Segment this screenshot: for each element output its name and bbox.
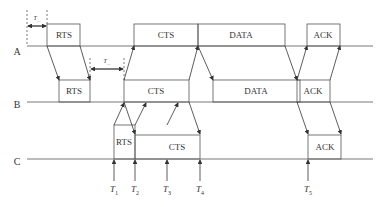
frame-label-c-rts: RTS	[116, 137, 132, 147]
frame-label-a-data: DATA	[229, 30, 252, 40]
frame-label-b-data: DATA	[244, 86, 267, 96]
frame-c-cts	[135, 135, 200, 159]
time-marker-t3: T3	[163, 184, 171, 196]
time-marker-t4: T4	[196, 184, 204, 196]
frame-label-a-ack: ACK	[313, 30, 332, 40]
interval-label-2: T…	[104, 58, 111, 66]
timing-diagram: A B C RTS CTS DATA ACK RTS CTS DATA ACK …	[0, 0, 384, 207]
frame-label-a-cts: CTS	[158, 30, 175, 40]
frame-label-a-rts: RTS	[56, 30, 72, 40]
time-marker-t5: T5	[304, 184, 312, 196]
interval-label-1: T…	[34, 15, 41, 23]
node-label-c: C	[14, 157, 21, 167]
time-marker-t1: T1	[110, 184, 118, 196]
frame-label-c-cts: CTS	[169, 142, 186, 152]
frame-label-b-ack: ACK	[303, 86, 322, 96]
frame-label-c-ack: ACK	[315, 142, 334, 152]
frame-label-b-rts: RTS	[66, 86, 82, 96]
node-label-b: B	[14, 100, 21, 110]
time-marker-t2: T2	[131, 184, 139, 196]
frame-label-b-cts: CTS	[148, 86, 165, 96]
node-label-a: A	[13, 47, 20, 57]
